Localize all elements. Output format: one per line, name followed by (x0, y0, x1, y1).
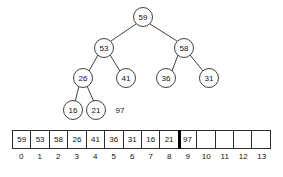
binary-tree-graphic: 595358264136311621 97 (0, 0, 283, 125)
array-index-label: 1 (31, 152, 50, 161)
array-index-label: 3 (68, 152, 87, 161)
tree-edge (190, 55, 203, 71)
tree-edge (150, 24, 177, 41)
tree-edges (75, 24, 203, 102)
array-cell-filled[interactable]: 21 (160, 131, 178, 148)
tree-node[interactable]: 31 (200, 69, 219, 88)
tree-node-label: 21 (92, 106, 101, 115)
tree-edge (89, 55, 98, 71)
array-index-label: 5 (105, 152, 124, 161)
array-representation: 59535826413631162197 012345678910111213 (12, 130, 271, 161)
tree-node[interactable]: 16 (64, 101, 83, 120)
array-index-label: 2 (49, 152, 68, 161)
array-cell-empty[interactable] (252, 131, 269, 148)
array-index-label: 11 (216, 152, 235, 161)
array-index-label: 12 (234, 152, 253, 161)
tree-node-label: 16 (69, 106, 78, 115)
array-cells-row: 59535826413631162197 (12, 130, 271, 149)
tree-node-label: 58 (180, 44, 189, 53)
tree-node[interactable]: 58 (175, 39, 194, 58)
array-cell-filled[interactable]: 59 (13, 131, 31, 148)
array-cell-empty[interactable] (234, 131, 252, 148)
tree-node-label: 26 (79, 74, 88, 83)
detached-value-label: 97 (116, 106, 125, 115)
tree-node-label: 59 (139, 13, 148, 22)
array-index-label: 8 (160, 152, 179, 161)
array-cell-filled[interactable]: 53 (31, 131, 49, 148)
heap-diagram-figure: 595358264136311621 97 595358264136311621… (0, 0, 283, 177)
array-index-label: 4 (86, 152, 105, 161)
array-index-label: 6 (123, 152, 142, 161)
tree-node[interactable]: 41 (117, 69, 136, 88)
tree-node-label: 53 (100, 44, 109, 53)
array-cell-filled[interactable]: 97 (179, 131, 197, 148)
detached-value-text: 97 (116, 106, 125, 115)
tree-node-label: 36 (162, 74, 171, 83)
array-cell-filled[interactable]: 26 (68, 131, 86, 148)
tree-node[interactable]: 53 (95, 39, 114, 58)
array-cell-filled[interactable]: 41 (87, 131, 105, 148)
tree-node[interactable]: 59 (134, 8, 153, 27)
array-cell-filled[interactable]: 58 (50, 131, 68, 148)
array-index-row: 012345678910111213 (12, 152, 271, 161)
array-index-label: 7 (142, 152, 161, 161)
tree-nodes: 595358264136311621 (64, 8, 219, 120)
array-cell-filled[interactable]: 16 (142, 131, 160, 148)
array-cell-filled[interactable]: 36 (105, 131, 123, 148)
tree-edge (111, 24, 136, 41)
tree-node[interactable]: 21 (87, 101, 106, 120)
array-cell-empty[interactable] (197, 131, 215, 148)
tree-edge (87, 86, 94, 102)
array-cell-filled[interactable]: 31 (124, 131, 142, 148)
tree-node[interactable]: 26 (74, 69, 93, 88)
tree-node[interactable]: 36 (157, 69, 176, 88)
tree-node-label: 41 (122, 74, 131, 83)
array-index-label: 0 (12, 152, 31, 161)
array-cell-empty[interactable] (216, 131, 234, 148)
tree-edge (110, 55, 120, 71)
array-index-label: 9 (179, 152, 198, 161)
tree-node-label: 31 (205, 74, 214, 83)
array-index-label: 10 (197, 152, 216, 161)
tree-edge (75, 86, 79, 102)
array-index-label: 13 (253, 152, 272, 161)
tree-edge (172, 55, 178, 71)
